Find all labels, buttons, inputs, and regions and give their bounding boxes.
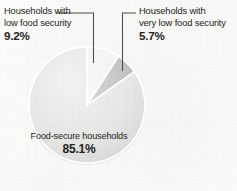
callout-very-low-food-security: Households with very low food security 5… <box>139 5 226 41</box>
callout-very-low-percent: 5.7% <box>139 30 226 42</box>
chart-canvas: Households with low food security 9.2% H… <box>0 0 237 191</box>
callout-very-low-line1: Households with <box>139 5 226 17</box>
callout-low-food-security: Households with low food security 9.2% <box>4 5 71 41</box>
callout-low-line1: Households with <box>4 5 71 17</box>
callout-low-percent: 9.2% <box>4 30 71 42</box>
callout-low-line2: low food security <box>4 17 71 29</box>
slice-label-food-secure-text: Food-secure households <box>21 131 137 142</box>
slice-label-food-secure: Food-secure households 85.1% <box>21 131 137 155</box>
slice-label-food-secure-percent: 85.1% <box>21 144 137 155</box>
callout-very-low-line2: very low food security <box>139 17 226 29</box>
